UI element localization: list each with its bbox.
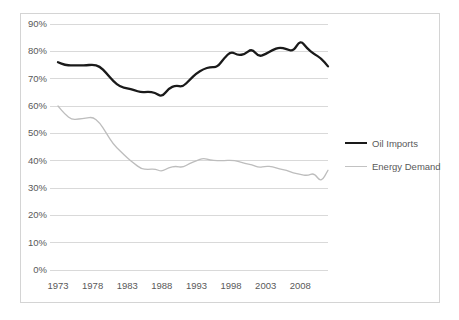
legend-label-oil-imports: Oil Imports	[372, 138, 418, 149]
legend-swatch-energy-demand	[345, 166, 367, 167]
gridlines	[50, 24, 328, 270]
legend-label-energy-demand: Energy Demand	[372, 161, 441, 172]
chart-legend: Oil Imports Energy Demand	[345, 134, 455, 180]
legend-item-energy-demand: Energy Demand	[345, 157, 455, 175]
series-line-oil-imports	[58, 42, 328, 95]
chart-container: 0%10%20%30%40%50%60%70%80%90% 1973197819…	[0, 0, 459, 320]
legend-swatch-oil-imports	[345, 142, 367, 144]
legend-item-oil-imports: Oil Imports	[345, 134, 455, 152]
series-line-energy-demand	[58, 106, 328, 180]
